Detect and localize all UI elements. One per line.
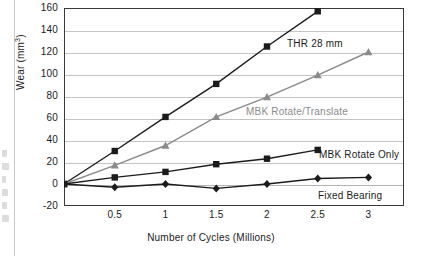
x-tick-label: 1.5: [196, 210, 236, 220]
x-axis-title: Number of Cycles (Millions): [0, 232, 422, 243]
y-tick-label: 0: [18, 179, 58, 189]
x-tick-label: 2: [247, 210, 287, 220]
series-label-mbk-rotate-only: MBK Rotate Only: [319, 149, 399, 160]
y-axis-title-text: Wear (mm3): [15, 34, 26, 90]
y-tick-label: 160: [18, 3, 58, 13]
y-tick-label: 120: [18, 47, 58, 57]
series-layer: [64, 8, 404, 206]
series-label-fixed-bearing: Fixed Bearing: [318, 190, 382, 201]
series-label-thr-28-mm: THR 28 mm: [287, 38, 343, 49]
x-tick-label: 0.5: [95, 210, 135, 220]
y-tick-label: 140: [18, 25, 58, 35]
y-tick-label: 20: [18, 157, 58, 167]
y-tick-label: 100: [18, 69, 58, 79]
y-tick-label: -20: [18, 201, 58, 211]
y-tick-label: 40: [18, 135, 58, 145]
wear-vs-cycles-line-chart: Wear (mm3) 160140120100806040200-20 THR …: [0, 0, 422, 256]
x-tick-label: 2.5: [298, 210, 338, 220]
series-label-mbk-rotate-translate: MBK Rotate/Translate: [246, 106, 348, 117]
page-edge-text-smudge: [2, 150, 11, 230]
y-axis-title: Wear (mm3): [14, 34, 26, 90]
x-tick-label: 1: [145, 210, 185, 220]
y-tick-label: 80: [18, 91, 58, 101]
series-mbk-rotate-only: [64, 147, 321, 188]
y-tick-label: 60: [18, 113, 58, 123]
series-thr-28-mm: [64, 8, 321, 187]
x-tick-label: 3: [348, 210, 388, 220]
